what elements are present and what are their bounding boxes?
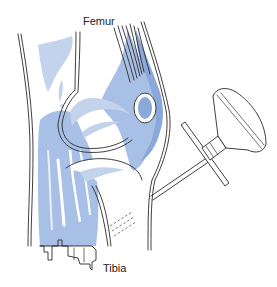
femur-label: Femur	[83, 15, 115, 27]
knee-illustration	[0, 0, 277, 287]
knee-diagram: Femur Tibia	[0, 0, 277, 287]
patella	[134, 93, 156, 123]
tibia-label: Tibia	[103, 262, 126, 274]
